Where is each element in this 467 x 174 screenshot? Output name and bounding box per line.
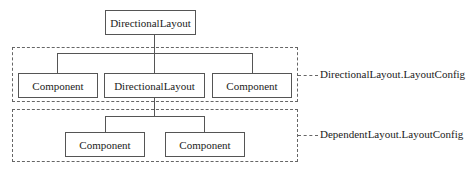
label-directional-layout-config: DirectionalLayout.LayoutConfig	[320, 68, 465, 80]
node-component: Component	[212, 73, 292, 98]
node-component: Component	[165, 132, 245, 157]
node-component: Component	[18, 73, 98, 98]
label-dependent-layout-config: DependentLayout.LayoutConfig	[320, 128, 463, 140]
annotation-link-dependent	[298, 135, 318, 136]
node-directional-layout: DirectionalLayout	[104, 73, 205, 98]
layout-config-group-dependent	[12, 109, 298, 162]
node-root-directional-layout: DirectionalLayout	[105, 10, 196, 35]
annotation-link-directional	[298, 75, 318, 76]
node-component: Component	[65, 132, 145, 157]
